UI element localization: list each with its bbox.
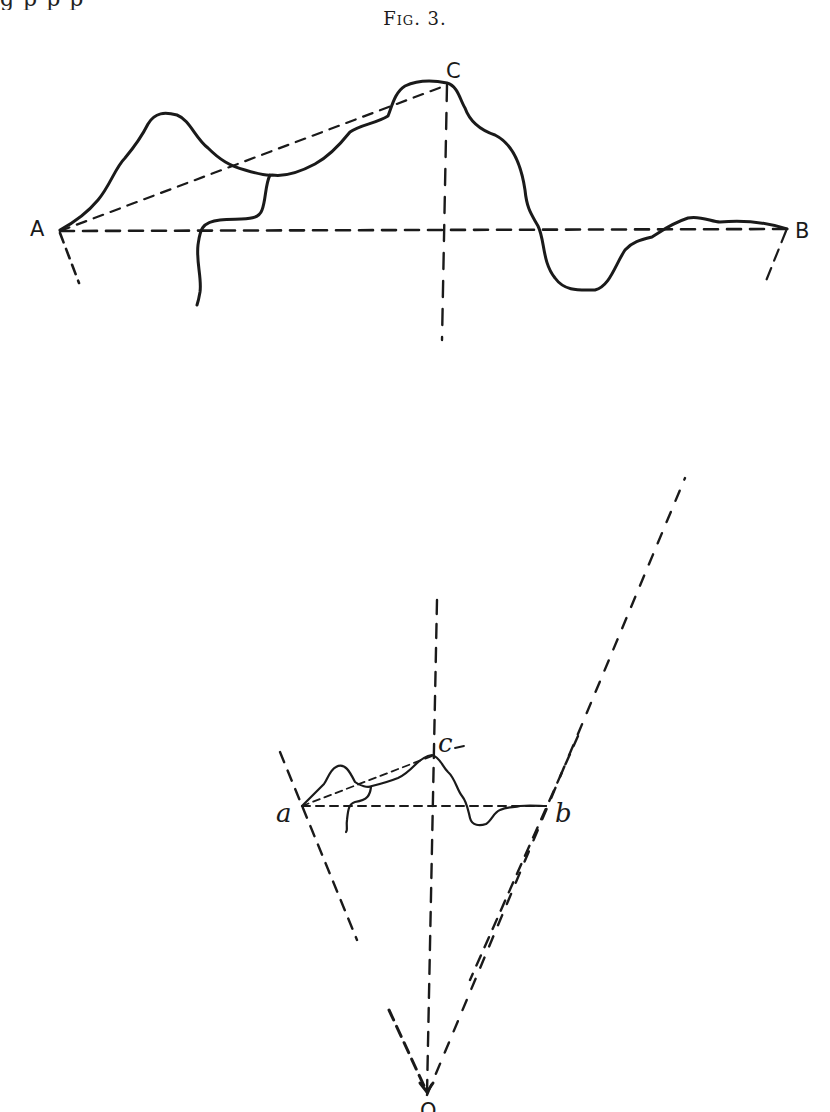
label-B: B <box>795 219 809 243</box>
label-O: O <box>420 1099 437 1112</box>
ray-stub-A <box>60 233 79 283</box>
label-c: c <box>438 728 453 758</box>
ray-stub-B <box>766 231 786 281</box>
ray-Oa-near-O <box>389 1010 425 1088</box>
profile-curve-upper <box>60 81 787 290</box>
profile-branch-upper <box>197 175 270 305</box>
vertical-C <box>442 85 447 340</box>
label-a: a <box>276 798 292 828</box>
baseline-AB <box>60 229 787 231</box>
label-A: A <box>30 217 45 241</box>
vertical-cO <box>427 600 437 1093</box>
chord-AC <box>60 85 447 231</box>
perspective-diagram: A B C a b c O <box>0 0 830 1112</box>
c-tick <box>455 746 464 748</box>
ray-Ob <box>470 736 578 980</box>
profile-curve-lower <box>302 755 546 825</box>
profile-branch-lower <box>346 787 371 832</box>
label-C: C <box>446 59 461 83</box>
ray-Oa <box>280 752 357 940</box>
label-b: b <box>555 798 572 828</box>
ray-Ob-extended <box>427 478 685 1095</box>
